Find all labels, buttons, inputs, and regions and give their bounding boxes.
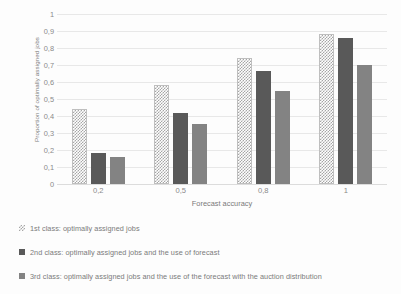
- y-axis-tick-label: 0,4: [30, 112, 54, 121]
- bar[interactable]: [319, 34, 334, 184]
- bar-group: [140, 14, 223, 184]
- legend-label: 3rd class: optimally assigned jobs and t…: [30, 272, 322, 281]
- bar[interactable]: [173, 113, 188, 184]
- y-axis-tick-label: 0,2: [30, 146, 54, 155]
- bar-group: [222, 14, 305, 184]
- y-axis-tick-label: 0,9: [30, 27, 54, 36]
- legend-swatch-icon: [19, 249, 25, 255]
- legend-swatch-icon: [19, 225, 25, 231]
- gridline: [57, 184, 387, 185]
- bar[interactable]: [256, 71, 271, 184]
- y-axis-tick-label: 0,7: [30, 61, 54, 70]
- bar-chart: Proportion of optimally assigned jobs 00…: [0, 0, 401, 294]
- bar-groups: [57, 14, 387, 184]
- y-axis-tick-label: 0,8: [30, 44, 54, 53]
- bar[interactable]: [154, 85, 169, 184]
- bar[interactable]: [237, 58, 252, 184]
- plot-area: Proportion of optimally assigned jobs 00…: [0, 0, 401, 200]
- bar[interactable]: [275, 91, 290, 184]
- legend-item[interactable]: 1st class: optimally assigned jobs: [19, 216, 391, 240]
- x-axis-tick-label: 1: [305, 186, 388, 195]
- legend: 1st class: optimally assigned jobs2nd cl…: [19, 216, 391, 288]
- y-axis-tick-label: 0: [30, 180, 54, 189]
- x-axis-title: Forecast accuracy: [57, 199, 387, 208]
- x-axis-tick-label: 0,5: [140, 186, 223, 195]
- bar[interactable]: [338, 38, 353, 184]
- x-axis-tick-label: 0,8: [222, 186, 305, 195]
- legend-label: 1st class: optimally assigned jobs: [30, 224, 140, 233]
- y-axis-tick-label: 0,3: [30, 129, 54, 138]
- legend-swatch-icon: [19, 273, 25, 279]
- y-axis-tick-label: 0,5: [30, 95, 54, 104]
- legend-label: 2nd class: optimally assigned jobs and t…: [30, 248, 219, 257]
- bar-group: [305, 14, 388, 184]
- bar-group: [57, 14, 140, 184]
- bar[interactable]: [192, 124, 207, 184]
- legend-item[interactable]: 2nd class: optimally assigned jobs and t…: [19, 240, 391, 264]
- y-axis-tick-labels: 00,10,20,30,40,50,60,70,80,91: [30, 14, 54, 184]
- x-axis-tick-label: 0,2: [57, 186, 140, 195]
- y-axis-tick-label: 0,1: [30, 163, 54, 172]
- y-axis-tick-label: 0,6: [30, 78, 54, 87]
- bar[interactable]: [72, 109, 87, 184]
- bar[interactable]: [357, 65, 372, 184]
- plot-panel: [57, 14, 387, 184]
- legend-item[interactable]: 3rd class: optimally assigned jobs and t…: [19, 264, 391, 288]
- bar[interactable]: [110, 157, 125, 184]
- bar[interactable]: [91, 153, 106, 184]
- y-axis-tick-label: 1: [30, 10, 54, 19]
- x-axis-tick-labels: 0,20,50,81: [57, 186, 387, 195]
